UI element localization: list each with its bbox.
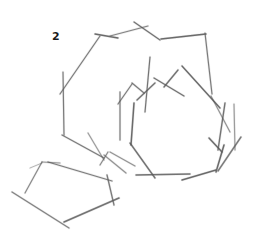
sketch-strokes xyxy=(12,22,241,228)
pencil-stroke-outer-hexagon xyxy=(60,36,100,94)
pencil-stroke-pentagon xyxy=(12,192,69,228)
pencil-stroke-outer-hexagon xyxy=(205,33,212,94)
pencil-stroke-inner-crown xyxy=(182,66,220,108)
pencil-stroke-outer-hexagon xyxy=(62,135,104,158)
pencil-stroke-outer-bottom xyxy=(104,155,126,173)
sketch-canvas xyxy=(0,0,254,243)
pencil-stroke-outer-hexagon xyxy=(161,34,206,39)
pencil-stroke-outer-hexagon xyxy=(134,22,160,40)
pencil-stroke-inner-crown xyxy=(130,143,155,178)
pencil-stroke-inner-crown xyxy=(132,83,144,93)
pencil-stroke-pentagon xyxy=(64,198,119,222)
pencil-stroke-outer-hexagon xyxy=(145,57,150,112)
figure-number-label: 2 xyxy=(52,30,60,43)
pencil-stroke-inner-crown xyxy=(136,174,190,175)
pencil-stroke-outer-bottom xyxy=(88,133,104,160)
pencil-stroke-pentagon xyxy=(48,162,112,181)
pencil-stroke-inner-crown xyxy=(164,70,178,87)
